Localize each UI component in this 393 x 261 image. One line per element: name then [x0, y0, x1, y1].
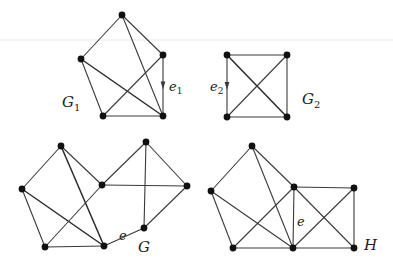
vertex [208, 188, 215, 195]
edge [252, 146, 293, 248]
vertex [101, 243, 108, 250]
label-g1: G1 [62, 93, 80, 113]
label-e1: e1 [169, 79, 182, 96]
vertex [184, 183, 191, 190]
vertex [119, 12, 126, 19]
graph-g2 [224, 52, 291, 121]
vertex [141, 225, 148, 232]
vertex [99, 182, 106, 189]
edge [252, 146, 294, 187]
vertex [100, 113, 107, 120]
label-g: G [138, 238, 150, 256]
vertex [284, 114, 291, 121]
vertex [351, 245, 358, 252]
edge [103, 55, 163, 116]
arrow-icon [225, 82, 230, 90]
graph-h [208, 143, 358, 252]
vertex [160, 52, 167, 59]
vertex [224, 114, 231, 121]
edge [211, 191, 233, 248]
edge [45, 185, 102, 247]
arrow-icon [161, 82, 166, 90]
vertex [143, 139, 150, 146]
edge [144, 186, 187, 228]
edge-e [293, 187, 294, 248]
vertex [78, 56, 85, 63]
label-e-in-g: e [119, 228, 127, 243]
vertex [351, 185, 358, 192]
edge [233, 187, 294, 248]
edge [81, 15, 122, 59]
label-h: H [363, 236, 378, 254]
edge [146, 142, 187, 186]
edge [211, 146, 252, 191]
edge [102, 142, 146, 185]
label-e2: e2 [210, 79, 223, 96]
vertex [290, 245, 297, 252]
graph-g [19, 139, 191, 251]
vertex [19, 186, 26, 193]
graph-figure: G1 e1 e2 G2 e G e H [0, 0, 393, 261]
vertex [42, 244, 49, 251]
label-e-in-h: e [297, 214, 305, 229]
vertex [58, 143, 65, 150]
graph-g1 [78, 12, 167, 120]
vertex [160, 113, 167, 120]
edge [61, 146, 102, 185]
label-g2: G2 [302, 90, 320, 110]
vertex [291, 184, 298, 191]
edge [294, 187, 354, 188]
vertex [284, 52, 291, 59]
edge [122, 15, 163, 55]
graphs-layer [19, 12, 358, 252]
edge [22, 146, 61, 189]
vertex [249, 143, 256, 150]
vertex [224, 52, 231, 59]
vertex [230, 245, 237, 252]
edge [45, 246, 104, 247]
